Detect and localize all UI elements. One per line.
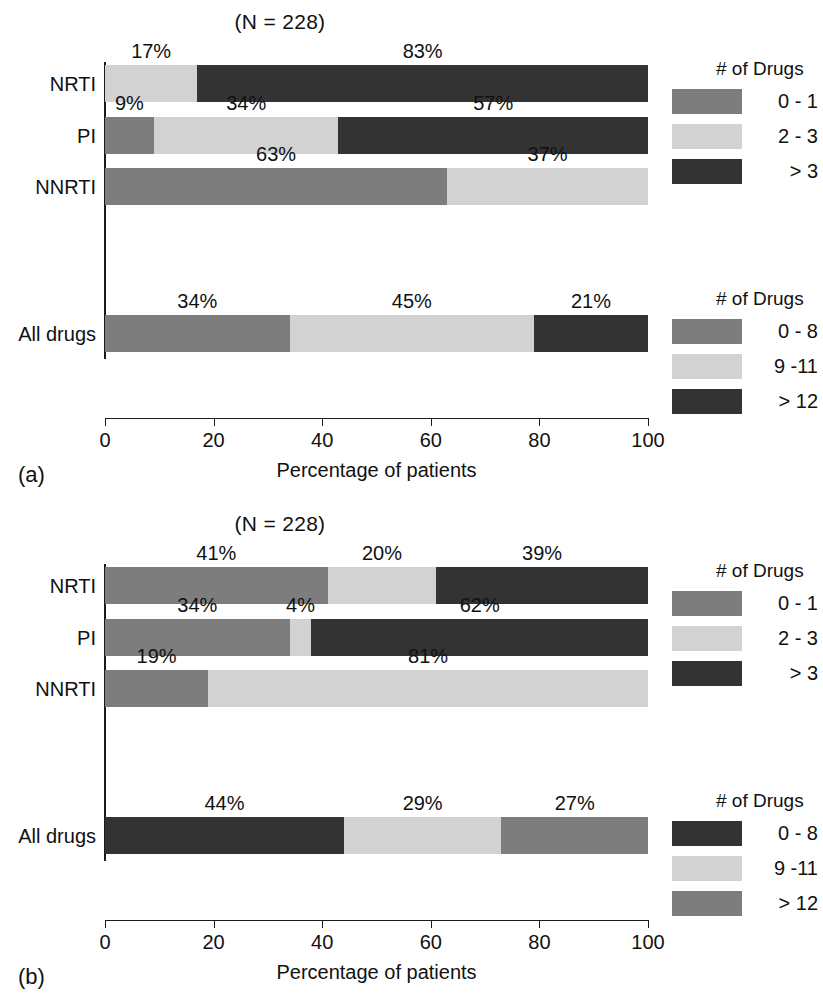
x-axis-tick <box>322 418 323 426</box>
bar-segment <box>290 619 312 656</box>
figure-stacked-bar-charts: (N = 228) 020406080100 Percentage of pat… <box>0 0 823 1004</box>
panel-a-legend-bottom: # of Drugs 0 - 89 -11> 12 <box>672 288 818 422</box>
bar-segment <box>447 168 648 205</box>
legend-swatch <box>672 319 742 344</box>
x-axis-tick-label: 80 <box>528 931 550 954</box>
category-label-pi: PI <box>0 124 96 147</box>
x-axis-tick-label: 0 <box>99 931 110 954</box>
panel-b-title: (N = 228) <box>0 512 560 536</box>
bar-value-label: 37% <box>528 143 568 166</box>
panel-a-legend-top: # of Drugs 0 - 12 - 3> 3 <box>672 58 818 192</box>
legend-title: # of Drugs <box>672 288 818 310</box>
bar-value-label: 62% <box>460 594 500 617</box>
legend-item: 2 - 3 <box>672 624 818 653</box>
x-axis-tick <box>539 920 540 928</box>
bar-value-label: 41% <box>196 542 236 565</box>
legend-swatch <box>672 891 742 916</box>
legend-label: > 12 <box>760 390 818 413</box>
bar-nnrti <box>105 670 648 707</box>
x-axis-tick-label: 40 <box>311 931 333 954</box>
category-label-nrti: NRTI <box>0 574 96 597</box>
legend-item: > 3 <box>672 157 818 186</box>
legend-label: 0 - 8 <box>760 320 818 343</box>
bar-segment <box>105 168 447 205</box>
legend-label: 0 - 1 <box>760 592 818 615</box>
legend-item: > 3 <box>672 659 818 688</box>
bar-value-label: 57% <box>473 92 513 115</box>
legend-item: 0 - 1 <box>672 87 818 116</box>
bar-value-label: 4% <box>286 594 315 617</box>
bar-segment <box>105 315 290 352</box>
x-axis-tick-label: 0 <box>99 429 110 452</box>
panel-b-tag: (b) <box>18 964 45 990</box>
panel-b: (N = 228) 020406080100 Percentage of pat… <box>0 502 823 1004</box>
bar-value-label: 17% <box>131 40 171 63</box>
legend-swatch <box>672 124 742 149</box>
bar-value-label: 20% <box>362 542 402 565</box>
legend-swatch <box>672 389 742 414</box>
panel-b-legend-bottom: # of Drugs 0 - 89 -11> 12 <box>672 790 818 924</box>
bar-value-label: 34% <box>177 290 217 313</box>
legend-label: > 3 <box>760 160 818 183</box>
x-axis-tick-label: 100 <box>631 931 664 954</box>
legend-swatch <box>672 89 742 114</box>
bar-nnrti <box>105 168 648 205</box>
bar-value-label: 29% <box>403 792 443 815</box>
bar-segment <box>534 315 648 352</box>
category-label-nnrti: NNRTI <box>0 175 96 198</box>
legend-label: 9 -11 <box>760 355 818 378</box>
legend-item: 9 -11 <box>672 854 818 883</box>
x-axis-tick-label: 80 <box>528 429 550 452</box>
bar-value-label: 44% <box>204 792 244 815</box>
bar-segment <box>290 315 534 352</box>
bar-nrti <box>105 65 648 102</box>
legend-title: # of Drugs <box>672 560 818 582</box>
x-axis-tick-label: 20 <box>202 931 224 954</box>
x-axis-tick <box>431 418 432 426</box>
category-label-nrti: NRTI <box>0 72 96 95</box>
bar-all-drugs <box>105 817 648 854</box>
bar-segment <box>105 670 208 707</box>
x-axis-tick-label: 60 <box>420 931 442 954</box>
legend-label: 0 - 1 <box>760 90 818 113</box>
bar-value-label: 39% <box>522 542 562 565</box>
legend-swatch <box>672 591 742 616</box>
category-label-all-drugs: All drugs <box>0 322 96 345</box>
legend-item: > 12 <box>672 889 818 918</box>
legend-label: 2 - 3 <box>760 627 818 650</box>
x-axis-tick-label: 40 <box>311 429 333 452</box>
legend-label: > 12 <box>760 892 818 915</box>
bar-pi <box>105 619 648 656</box>
legend-items: 0 - 89 -11> 12 <box>672 819 818 918</box>
legend-item: > 12 <box>672 387 818 416</box>
x-axis-tick <box>105 920 106 928</box>
legend-label: > 3 <box>760 662 818 685</box>
bar-segment <box>338 117 648 154</box>
bar-segment <box>154 117 339 154</box>
legend-item: 2 - 3 <box>672 122 818 151</box>
bar-value-label: 34% <box>177 594 217 617</box>
panel-b-x-axis-label: Percentage of patients <box>105 961 648 984</box>
bar-value-label: 63% <box>256 143 296 166</box>
legend-items: 0 - 12 - 3> 3 <box>672 589 818 688</box>
x-axis-tick-label: 20 <box>202 429 224 452</box>
panel-a-x-axis <box>105 418 649 419</box>
x-axis-tick <box>431 920 432 928</box>
bar-all-drugs <box>105 315 648 352</box>
bar-segment <box>105 117 154 154</box>
x-axis-tick-label: 100 <box>631 429 664 452</box>
bar-value-label: 81% <box>408 645 448 668</box>
category-label-pi: PI <box>0 626 96 649</box>
legend-item: 0 - 1 <box>672 589 818 618</box>
panel-b-x-axis <box>105 920 649 921</box>
x-axis-tick <box>648 418 649 426</box>
bar-segment <box>344 817 501 854</box>
legend-swatch <box>672 626 742 651</box>
legend-item: 0 - 8 <box>672 317 818 346</box>
bar-segment <box>208 670 648 707</box>
bar-value-label: 83% <box>403 40 443 63</box>
bar-segment <box>105 619 290 656</box>
bar-value-label: 19% <box>137 645 177 668</box>
panel-b-legend-top: # of Drugs 0 - 12 - 3> 3 <box>672 560 818 694</box>
bar-value-label: 45% <box>392 290 432 313</box>
